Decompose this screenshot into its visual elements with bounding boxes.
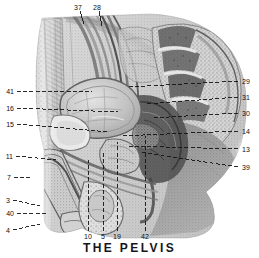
callout-29: 29 — [242, 78, 250, 85]
callout-31: 31 — [242, 94, 250, 101]
callout-11: 11 — [0, 153, 13, 160]
callout-5: 5 — [98, 233, 108, 240]
callout-40: 40 — [0, 210, 14, 217]
callout-30: 30 — [242, 110, 250, 117]
callout-37: 37 — [72, 4, 84, 11]
callout-16: 16 — [0, 105, 14, 112]
callout-14: 14 — [242, 128, 250, 135]
callout-15: 15 — [0, 121, 14, 128]
callout-41: 41 — [0, 88, 14, 95]
pelvis-figure: 37 28 41 16 15 11 7 3 40 4 29 31 30 14 1… — [0, 0, 259, 258]
callout-28: 28 — [91, 4, 103, 11]
callout-7: 7 — [0, 174, 11, 181]
callout-19: 19 — [111, 233, 123, 240]
callout-3: 3 — [0, 197, 10, 204]
anatomical-illustration — [0, 0, 259, 258]
callout-4: 4 — [0, 227, 10, 234]
callout-13: 13 — [242, 146, 250, 153]
figure-title: THE PELVIS — [0, 241, 259, 255]
callout-10: 10 — [82, 233, 94, 240]
callout-39: 39 — [242, 164, 250, 171]
callout-42: 42 — [139, 233, 151, 240]
